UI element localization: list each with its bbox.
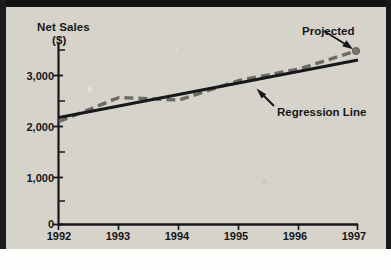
arrow-regression-line <box>257 89 275 107</box>
chart-canvas <box>6 7 386 249</box>
data-point-marker-projected <box>352 47 359 54</box>
series-regression-line <box>59 60 358 118</box>
series-net-sales <box>59 51 356 122</box>
plot-area: Net Sales ($) 3,000 2,000 1,000 0 1992 1… <box>6 7 386 249</box>
scan-edge-top <box>0 0 391 7</box>
scan-edge-right <box>386 0 391 249</box>
chart-figure: Net Sales ($) 3,000 2,000 1,000 0 1992 1… <box>0 0 391 270</box>
arrow-projected <box>324 31 353 49</box>
